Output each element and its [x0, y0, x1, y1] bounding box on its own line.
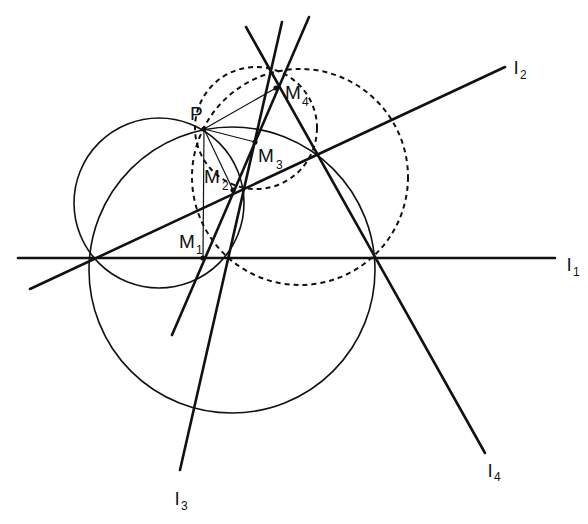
- label-M4-sub: 4: [302, 95, 309, 109]
- c-large-circle: [89, 127, 375, 413]
- c-small-left-circle: [74, 118, 244, 288]
- line-l2: [30, 67, 505, 289]
- label-l1: l: [567, 254, 571, 275]
- line-simson: [172, 17, 309, 335]
- label-M2-sub: 2: [222, 179, 229, 193]
- segment-P-M1: [203, 129, 204, 258]
- label-l2-sub: 2: [520, 68, 527, 82]
- label-l3-sub: 3: [181, 499, 188, 513]
- point-M3: [252, 139, 257, 144]
- label-M3: M: [258, 145, 274, 166]
- label-l4-sub: 4: [494, 470, 501, 484]
- label-P: P: [190, 103, 203, 124]
- label-M4: M: [285, 82, 301, 103]
- label-l2: l: [514, 57, 518, 78]
- label-M1: M: [179, 231, 195, 252]
- circles-group: [74, 67, 408, 413]
- label-M2: M: [204, 166, 220, 187]
- point-P: [201, 126, 206, 131]
- label-l4: l: [488, 460, 492, 481]
- segment-P-M4: [204, 88, 276, 129]
- label-l3: l: [175, 488, 179, 509]
- geometry-diagram: P M 1 M 2 M 3 M 4 l 2 l 1 l 3 l 4: [0, 0, 588, 524]
- label-M3-sub: 3: [276, 158, 283, 172]
- point-M2: [230, 187, 235, 192]
- label-l1-sub: 1: [573, 265, 580, 279]
- label-M1-sub: 1: [196, 243, 203, 257]
- diagram-svg: P M 1 M 2 M 3 M 4 l 2 l 1 l 3 l 4: [0, 0, 588, 524]
- point-M4: [273, 85, 278, 90]
